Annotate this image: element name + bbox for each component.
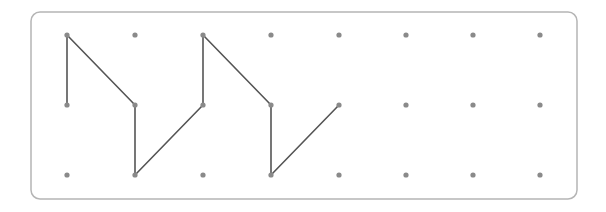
board-frame [31, 12, 577, 199]
grid-dot [200, 172, 205, 177]
grid-dot [64, 32, 69, 37]
grid-dot [537, 102, 542, 107]
grid-dot [403, 102, 408, 107]
grid-dot [268, 102, 273, 107]
grid-dot [336, 102, 341, 107]
grid-dot [336, 172, 341, 177]
grid-dot [200, 102, 205, 107]
grid-dot [268, 32, 273, 37]
grid-dot [336, 32, 341, 37]
grid-dot [200, 32, 205, 37]
grid-dot [470, 102, 475, 107]
grid-dot [537, 172, 542, 177]
grid-dot [403, 172, 408, 177]
grid-dot [470, 32, 475, 37]
grid-dot [537, 32, 542, 37]
grid-dot [403, 32, 408, 37]
grid-dot [64, 172, 69, 177]
grid-dot [470, 172, 475, 177]
grid-dot [132, 102, 137, 107]
geoboard-diagram [0, 0, 606, 212]
grid-dot [268, 172, 273, 177]
grid-dot [132, 32, 137, 37]
grid-dot [64, 102, 69, 107]
grid-dot [132, 172, 137, 177]
